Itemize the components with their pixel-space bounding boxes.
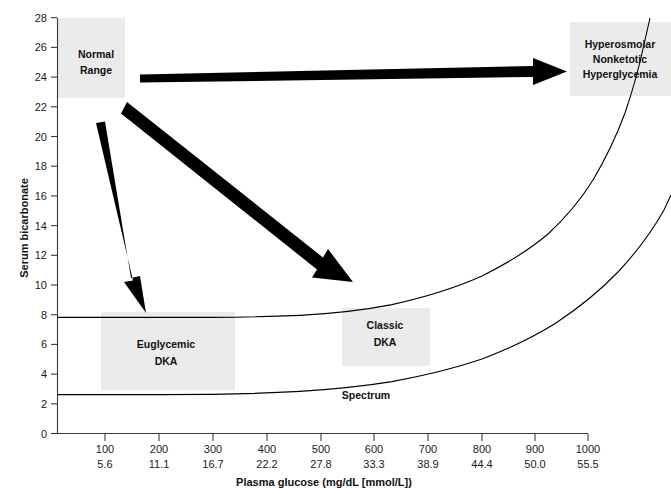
x-tick-label-mmol: 55.5: [577, 458, 598, 470]
x-tick-label-mmol: 22.2: [256, 458, 277, 470]
upper-boundary-curve: [58, 18, 650, 317]
label-classic-line2: DKA: [374, 336, 397, 348]
y-tick-label: 14: [35, 220, 47, 232]
label-euglycemic-line2: DKA: [155, 355, 178, 367]
x-axis-tick-labels-mmol: 5.6 11.1 16.7 22.2 27.8 33.3 38.9 44.4 5…: [97, 458, 598, 470]
x-axis-tick-labels-mgdl: 100 200 300 400 500 600 700 800 900 1000: [96, 443, 600, 455]
x-tick-label-mgdl: 200: [150, 443, 168, 455]
label-spectrum: Spectrum: [342, 389, 390, 401]
x-tick-label-mgdl: 1000: [576, 443, 600, 455]
x-tick-label-mgdl: 800: [473, 443, 491, 455]
label-normal-range-line1: Normal: [78, 48, 114, 60]
y-tick-label: 28: [35, 12, 47, 24]
dka-spectrum-figure: 0 2 4 6 8 10 12 14 16 18 20 22 24 26 28: [0, 0, 671, 494]
x-tick-label-mgdl: 700: [419, 443, 437, 455]
y-axis-ticks: [51, 18, 57, 434]
arrow-to-euglycemic-dka: [96, 122, 146, 314]
y-tick-label: 22: [35, 101, 47, 113]
x-tick-label-mgdl: 400: [258, 443, 276, 455]
y-tick-label: 2: [41, 398, 47, 410]
x-tick-label-mgdl: 500: [312, 443, 330, 455]
x-tick-label-mmol: 44.4: [471, 458, 492, 470]
y-tick-label: 0: [41, 428, 47, 440]
x-tick-label-mmol: 33.3: [363, 458, 384, 470]
label-euglycemic-line1: Euglycemic: [137, 338, 196, 350]
x-tick-label-mmol: 5.6: [97, 458, 112, 470]
arrow-to-hyperosmolar: [140, 58, 567, 85]
arrow-to-classic-dka: [121, 102, 353, 282]
label-normal-range-line2: Range: [80, 64, 112, 76]
x-tick-label-mgdl: 300: [204, 443, 222, 455]
x-tick-label-mgdl: 600: [365, 443, 383, 455]
y-tick-label: 12: [35, 249, 47, 261]
y-tick-label: 10: [35, 279, 47, 291]
y-tick-label: 18: [35, 160, 47, 172]
euglycemic-band: [101, 312, 235, 390]
y-tick-label: 6: [41, 338, 47, 350]
x-tick-label-mmol: 11.1: [149, 458, 170, 470]
y-tick-label: 20: [35, 131, 47, 143]
x-axis-ticks: [105, 434, 588, 441]
x-tick-label-mmol: 27.8: [310, 458, 331, 470]
y-tick-label: 4: [41, 368, 47, 380]
x-tick-label-mmol: 38.9: [417, 458, 438, 470]
transition-arrows: [96, 58, 567, 313]
chart-canvas: 0 2 4 6 8 10 12 14 16 18 20 22 24 26 28: [0, 0, 671, 494]
y-tick-label: 24: [35, 71, 47, 83]
x-axis-title: Plasma glucose (mg/dL [mmol/L]): [236, 476, 412, 488]
x-tick-label-mmol: 50.0: [524, 458, 545, 470]
label-hhs-line3: Hyperglycemia: [583, 68, 658, 80]
y-tick-label: 8: [41, 309, 47, 321]
y-tick-label: 26: [35, 41, 47, 53]
y-axis-title: Serum bicarbonate: [18, 178, 30, 278]
label-hhs-line1: Hyperosmolar: [585, 38, 656, 50]
y-axis-tick-labels: 0 2 4 6 8 10 12 14 16 18 20 22 24 26 28: [35, 12, 47, 440]
x-tick-label-mgdl: 100: [96, 443, 114, 455]
label-classic-line1: Classic: [367, 319, 404, 331]
label-hhs-line2: Nonketotic: [593, 53, 647, 65]
x-tick-label-mmol: 16.7: [202, 458, 223, 470]
y-tick-label: 16: [35, 190, 47, 202]
x-tick-label-mgdl: 900: [526, 443, 544, 455]
